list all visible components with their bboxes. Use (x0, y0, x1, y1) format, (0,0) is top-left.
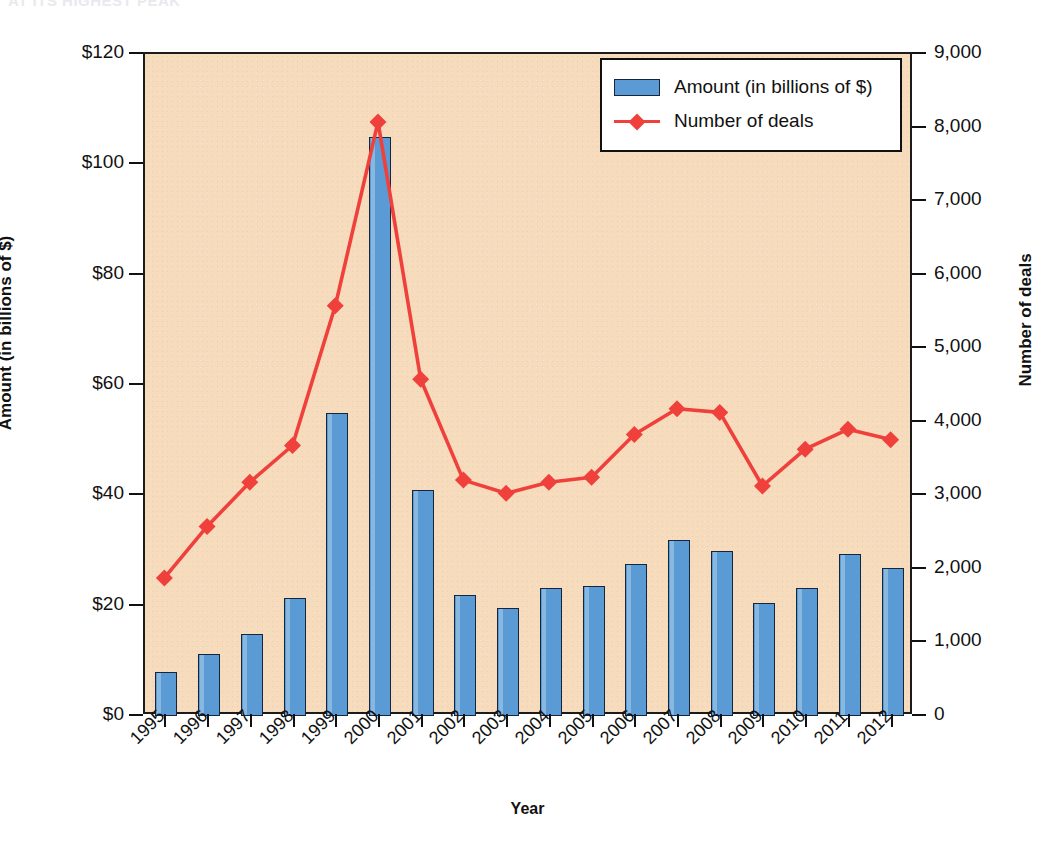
bar-1998 (284, 598, 306, 716)
y-right-tickmark (912, 126, 926, 128)
y-left-tickmark (129, 383, 143, 385)
legend-bar-swatch-icon (614, 79, 660, 96)
bar-2005 (583, 586, 605, 716)
bar-2006 (625, 564, 647, 716)
y-axis-left-title: Amount (in billions of $) (0, 0, 20, 757)
bar-1996 (198, 654, 220, 716)
y-right-tickmark (912, 199, 926, 201)
y-left-tickmark (129, 273, 143, 275)
y-axis-right-title: Number of deals (1012, 0, 1040, 700)
x-axis-title: Year (143, 800, 912, 818)
y-left-tickmark (129, 604, 143, 606)
y-right-tickmark (912, 420, 926, 422)
chart-legend: Amount (in billions of $) Number of deal… (600, 58, 902, 152)
legend-item-deals: Number of deals (614, 104, 888, 138)
clipped-heading: AT ITS HIGHEST PEAK (8, 0, 181, 9)
bar-2009 (753, 603, 775, 716)
bar-2000 (369, 137, 391, 716)
bar-2002 (454, 595, 476, 716)
bar-2008 (711, 551, 733, 717)
legend-item-amount: Amount (in billions of $) (614, 70, 888, 104)
bar-1997 (241, 634, 263, 716)
y-right-tickmark (912, 567, 926, 569)
legend-label-amount: Amount (in billions of $) (674, 76, 873, 98)
y-right-tickmark (912, 52, 926, 54)
y-left-tickmark (129, 493, 143, 495)
bar-2003 (497, 608, 519, 716)
y-right-tickmark (912, 640, 926, 642)
bar-2007 (668, 540, 690, 716)
y-right-tickmark (912, 493, 926, 495)
y-right-tickmark (912, 273, 926, 275)
chart-figure: AT ITS HIGHEST PEAK $0$20$40$60$80$100$1… (0, 0, 1059, 848)
y-right-tickmark (912, 346, 926, 348)
bar-2010 (796, 588, 818, 716)
bar-1999 (326, 413, 348, 716)
y-right-tick-label: 0 (934, 703, 1044, 725)
bar-2012 (882, 568, 904, 716)
bar-2001 (412, 490, 434, 716)
y-left-tickmark (129, 714, 143, 716)
bar-2004 (540, 588, 562, 716)
y-left-tickmark (129, 162, 143, 164)
legend-label-deals: Number of deals (674, 110, 813, 132)
bar-2011 (839, 554, 861, 716)
y-left-tickmark (129, 52, 143, 54)
legend-line-swatch-icon (614, 113, 660, 130)
y-right-tickmark (912, 714, 926, 716)
